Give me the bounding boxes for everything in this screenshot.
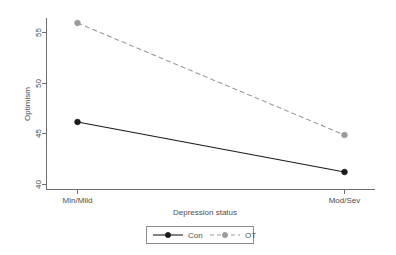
x-tick-label-mod-sev: Mod/Sev bbox=[329, 196, 361, 205]
y-tick-label-50: 50 bbox=[34, 79, 43, 88]
series-ot-point-min-mild bbox=[75, 20, 81, 26]
series-con-point-mod-sev bbox=[342, 169, 348, 175]
y-tick-label-40: 40 bbox=[34, 180, 43, 189]
line-chart: 55 50 45 40 Optimism Min/Mild Mod/Sev De… bbox=[0, 0, 396, 255]
legend-label-con: Con bbox=[188, 231, 203, 240]
legend-marker-con bbox=[165, 232, 170, 237]
y-axis-title: Optimism bbox=[23, 87, 32, 121]
x-tick-label-min-mild: Min/Mild bbox=[63, 196, 93, 205]
series-ot-point-mod-sev bbox=[342, 132, 348, 138]
legend-label-ot: OT bbox=[245, 231, 256, 240]
series-con-point-min-mild bbox=[75, 119, 81, 125]
y-tick-label-45: 45 bbox=[34, 129, 43, 138]
y-tick-label-55: 55 bbox=[34, 28, 43, 37]
legend-marker-ot bbox=[222, 232, 227, 237]
chart-figure: 55 50 45 40 Optimism Min/Mild Mod/Sev De… bbox=[0, 0, 396, 255]
x-axis-title: Depression status bbox=[173, 208, 237, 217]
